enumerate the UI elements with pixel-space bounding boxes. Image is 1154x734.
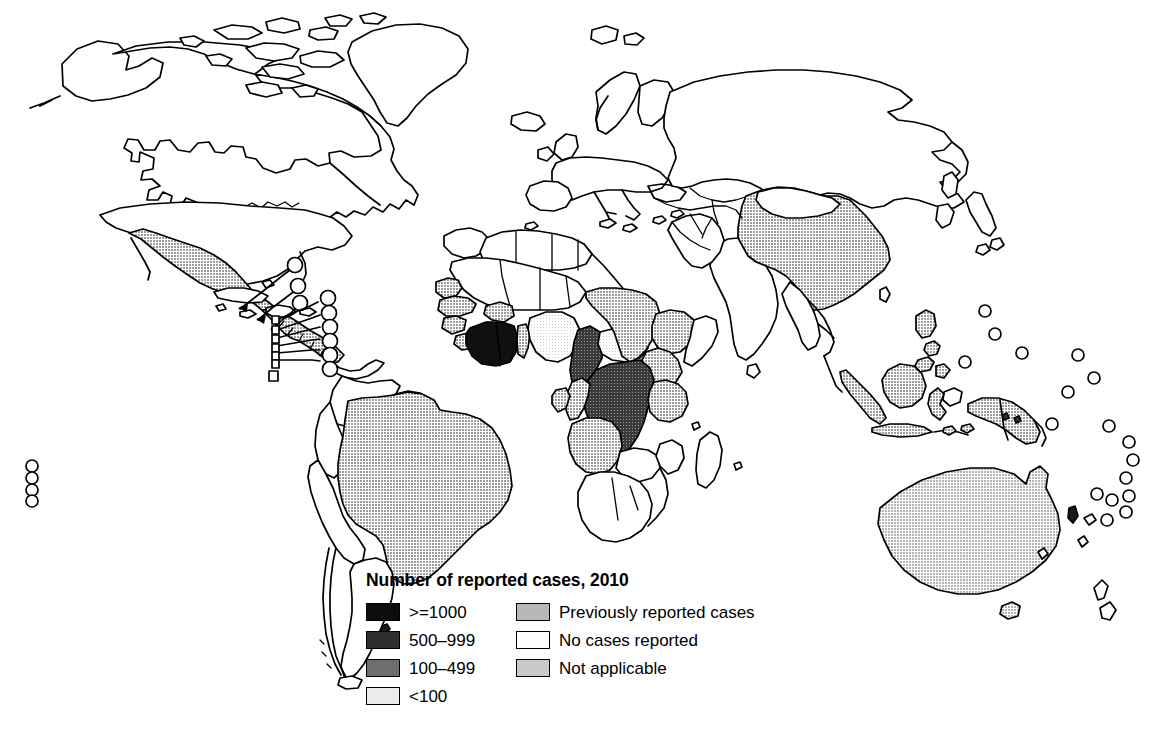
- legend-label-gte-1000: >=1000: [409, 604, 467, 621]
- legend-label-not-applicable: Not applicable: [559, 660, 667, 677]
- legend-swatch-not-applicable: [516, 659, 550, 677]
- legend-label-100-499: 100–499: [409, 660, 475, 677]
- legend-swatch-gte-1000: [366, 603, 400, 621]
- legend-swatch-no-cases-reported: [516, 631, 550, 649]
- map-figure: .ln { fill:none; stroke:#000; stroke-wid…: [0, 0, 1154, 734]
- map-legend: Number of reported cases, 2010 >=1000 50…: [366, 570, 786, 710]
- legend-swatch-100-499: [366, 659, 400, 677]
- legend-swatch-previously-reported-cases: [516, 603, 550, 621]
- legend-item-100-499[interactable]: 100–499: [366, 654, 516, 682]
- legend-column-status: Previously reported cases No cases repor…: [516, 598, 786, 682]
- legend-title: Number of reported cases, 2010: [366, 570, 786, 591]
- legend-label-previously-reported-cases: Previously reported cases: [559, 604, 755, 621]
- legend-label-no-cases-reported: No cases reported: [559, 632, 698, 649]
- legend-swatch-lt-100: [366, 687, 400, 705]
- legend-item-gte-1000[interactable]: >=1000: [366, 598, 516, 626]
- legend-swatch-500-999: [366, 631, 400, 649]
- legend-column-case-counts: >=1000 500–999 100–499 <100: [366, 598, 516, 710]
- legend-item-previously-reported-cases[interactable]: Previously reported cases: [516, 598, 786, 626]
- legend-item-500-999[interactable]: 500–999: [366, 626, 516, 654]
- legend-item-not-applicable[interactable]: Not applicable: [516, 654, 786, 682]
- legend-item-no-cases-reported[interactable]: No cases reported: [516, 626, 786, 654]
- legend-item-lt-100[interactable]: <100: [366, 682, 516, 710]
- legend-label-500-999: 500–999: [409, 632, 475, 649]
- legend-label-lt-100: <100: [409, 688, 447, 705]
